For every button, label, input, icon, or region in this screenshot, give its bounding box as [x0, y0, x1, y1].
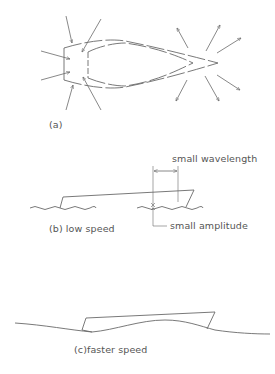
arrow-icon	[41, 51, 70, 59]
arrow-icon	[66, 16, 72, 43]
arrow-icon	[177, 28, 188, 48]
arrow-icon	[206, 25, 220, 51]
hull-profile-b	[60, 190, 194, 208]
panel-c-label: (c)faster speed	[74, 345, 147, 355]
boat-wave-diagram	[0, 0, 275, 374]
wave-left	[30, 207, 96, 210]
panel-b-low-speed	[30, 166, 203, 226]
arrow-icon	[217, 75, 240, 90]
outflow-arrows	[176, 25, 241, 101]
panel-c-faster-speed	[15, 312, 270, 334]
wave-right	[137, 207, 203, 210]
arrow-icon	[176, 80, 187, 101]
panel-a-label: (a)	[49, 120, 63, 130]
wavelength-label: small wavelength	[172, 154, 257, 164]
arrow-icon	[205, 76, 219, 101]
amplitude-label: small amplitude	[170, 221, 248, 231]
arrow-icon	[66, 85, 73, 110]
panel-a-hull-plan	[64, 40, 218, 88]
arrow-icon	[41, 72, 70, 80]
panel-b-label: (b) low speed	[49, 224, 115, 234]
inflow-arrows	[41, 16, 101, 110]
arrow-icon	[217, 38, 241, 53]
arrow-icon	[82, 19, 101, 52]
long-wave	[15, 320, 270, 334]
